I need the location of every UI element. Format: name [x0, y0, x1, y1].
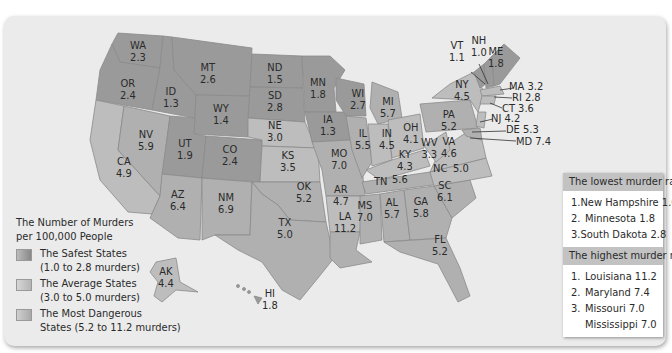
list-item: 3.South Dakota 2.8: [571, 227, 657, 243]
label-pa: PA5.2: [441, 109, 457, 133]
state-ct: [480, 96, 496, 104]
label-ny: NY4.5: [454, 79, 470, 103]
label-ky: KY4.3: [397, 149, 413, 173]
hi-island: [243, 288, 246, 291]
label-nc: NC: [433, 163, 447, 175]
label-ok: OK5.2: [296, 181, 312, 205]
label-ga: GA5.8: [413, 196, 429, 220]
label-mt: MT2.6: [200, 62, 216, 86]
leader-ct: [490, 103, 502, 108]
label-wv: WV3.3: [421, 137, 438, 161]
legend: The Number of Murders per 100,000 People…: [16, 216, 181, 335]
label-nm: NM6.9: [218, 192, 234, 216]
label-me: ME1.8: [488, 46, 504, 70]
label-ar: AR4.7: [333, 184, 349, 208]
legend-item-dangerous: The Most DangerousStates (5.2 to 11.2 mu…: [16, 307, 181, 335]
label-az: AZ6.4: [170, 189, 186, 213]
leader-ri: [494, 97, 512, 98]
legend-swatch-average: [16, 279, 32, 291]
hi-island: [237, 285, 240, 288]
label-sd: SD2.8: [267, 90, 283, 114]
label-mi: MI5.7: [380, 96, 396, 120]
label-co: CO2.4: [222, 144, 238, 168]
label-or: OR2.4: [120, 78, 136, 102]
label-vt: VT1.1: [449, 40, 465, 64]
legend-item-average: The Average States(3.0 to 5.0 murders): [16, 277, 181, 305]
state-nj: [476, 112, 486, 128]
label-hi: HI1.8: [262, 288, 278, 312]
label-tx: TX5.0: [277, 217, 293, 241]
callout-md: MD 7.4: [516, 136, 551, 148]
label-ne: NE3.0: [267, 120, 283, 144]
state-hi: [254, 296, 262, 304]
label-wi: WI2.7: [350, 88, 366, 112]
label-nh: NH1.0: [471, 35, 487, 59]
label-sc: SC6.1: [437, 180, 453, 204]
list-item: 3.Missouri 7.0: [571, 301, 657, 317]
label-ca: CA4.9: [116, 156, 132, 180]
label-ut: UT1.9: [177, 138, 193, 162]
list-item: Mississippi 7.0: [571, 317, 657, 333]
lowest-rates-list: 1.New Hampshire 1.0 2.Minnesota 1.8 3.So…: [563, 191, 663, 247]
lowest-rates-header: The lowest murder rates: [563, 173, 663, 191]
label-mo: MO7.0: [331, 148, 347, 172]
label-mn: MN1.8: [310, 77, 326, 101]
label-ms: MS7.0: [357, 200, 373, 224]
label-wa: WA2.3: [130, 40, 146, 64]
list-item: 1.New Hampshire 1.0: [571, 195, 657, 211]
state-fl: [384, 238, 470, 302]
highest-rates-header: The highest murder rates: [563, 247, 663, 265]
label-in: IN4.5: [379, 128, 395, 152]
label-id: ID1.3: [163, 86, 179, 110]
legend-title: The Number of Murders per 100,000 People: [16, 216, 181, 244]
label-oh: OH4.1: [403, 122, 419, 146]
hi-island: [248, 291, 251, 294]
list-item: 2.Minnesota 1.8: [571, 211, 657, 227]
label-nc-value: 5.0: [453, 163, 469, 175]
label-il: IL5.5: [355, 128, 371, 152]
highest-rates-list: 1.Louisiana 11.2 2.Maryland 7.4 3.Missou…: [563, 265, 663, 337]
label-wy: WY1.4: [213, 103, 229, 127]
label-fl: FL5.2: [432, 234, 448, 258]
label-nd: ND1.5: [267, 62, 283, 86]
label-tn: TN: [374, 176, 387, 188]
rankings-box: The lowest murder rates 1.New Hampshire …: [563, 173, 663, 337]
label-nv: NV5.9: [138, 129, 154, 153]
legend-item-safe: The Safest States(1.0 to 2.8 murders): [16, 247, 181, 275]
list-item: 2.Maryland 7.4: [571, 285, 657, 301]
label-tn-value: 5.6: [392, 174, 408, 186]
legend-swatch-safe: [16, 249, 32, 261]
label-ia: IA1.3: [320, 114, 336, 138]
state-ma: [480, 86, 504, 96]
label-va: VA4.6: [441, 136, 457, 160]
legend-swatch-dangerous: [16, 309, 32, 321]
label-ks: KS3.5: [280, 150, 296, 174]
list-item: 1.Louisiana 11.2: [571, 269, 657, 285]
label-la: LA11.2: [334, 211, 356, 235]
label-al: AL5.7: [384, 197, 400, 221]
